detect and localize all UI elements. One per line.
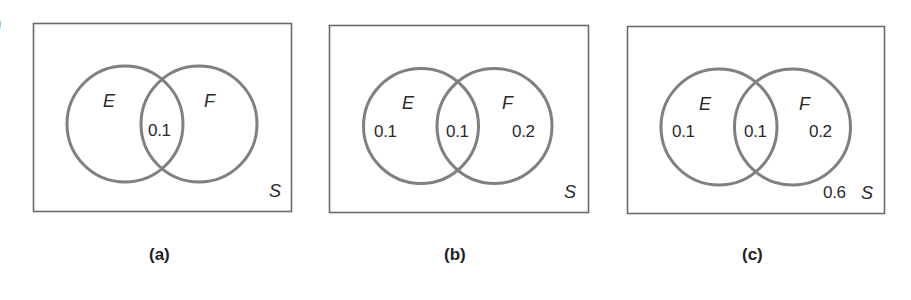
panel-caption: (c): [742, 246, 763, 263]
intersection-value: 0.1: [744, 123, 767, 140]
venn-graphic-c: [0, 0, 911, 300]
e-only-value: 0.1: [672, 123, 695, 140]
set-f-label: F: [799, 95, 810, 113]
universe-rectangle: [628, 27, 885, 214]
universe-label: S: [861, 184, 873, 202]
f-only-value: 0.2: [809, 123, 832, 140]
set-e-label: E: [699, 95, 711, 113]
venn-panel-c: E F 0.1 0.1 0.2 0.6 S (c): [0, 0, 911, 300]
outside-value: 0.6: [823, 184, 846, 201]
venn-diagram-figure: ) E F 0.1 S (a) E F 0.1 0.1 0.2 S (b): [0, 0, 911, 300]
